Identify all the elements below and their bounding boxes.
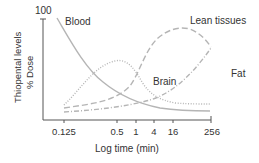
x-axis-title: Log time (min) bbox=[95, 144, 159, 154]
brain-curve bbox=[64, 61, 210, 105]
x-tick-label: 4 bbox=[151, 127, 156, 137]
y-axis-title-line2: % Dose bbox=[25, 56, 35, 89]
series-label-lean-tissues: Lean tissues bbox=[190, 15, 246, 26]
blood-curve bbox=[57, 18, 210, 111]
fat-curve bbox=[64, 48, 211, 112]
x-tick-label: 1 bbox=[133, 127, 138, 137]
x-tick-label: 0.5 bbox=[110, 127, 123, 137]
x-tick-label: 256 bbox=[204, 127, 220, 137]
series-label-blood: Blood bbox=[65, 16, 91, 27]
x-tick-label: 16 bbox=[168, 127, 179, 137]
x-tick-label: 0.125 bbox=[52, 127, 76, 137]
lean-tissues-curve bbox=[64, 28, 211, 108]
y-axis-title-line1: Thiopental levels bbox=[13, 32, 23, 103]
series-label-brain: Brain bbox=[153, 76, 176, 87]
series-label-fat: Fat bbox=[231, 68, 245, 79]
y-axis-max-label: 100 bbox=[35, 5, 52, 16]
